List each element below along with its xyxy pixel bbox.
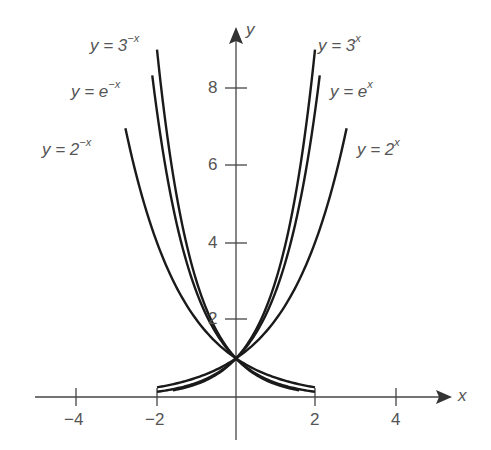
y-tick-label: 4	[208, 233, 217, 253]
label-exponent: x	[355, 32, 361, 44]
label-text: y = 3	[318, 36, 355, 55]
label-text: y = e	[330, 82, 367, 101]
x-tick-label: −4	[64, 410, 83, 430]
x-tick-label: 2	[310, 410, 319, 430]
curve-y-e-x	[152, 75, 315, 391]
curve-y-3-x	[173, 50, 315, 391]
label-y-e-pow-neg-x: y = e−x	[71, 80, 120, 102]
label-text: y = 3	[90, 36, 127, 55]
y-axis-label: y	[246, 20, 255, 40]
y-tick-label: 2	[208, 309, 217, 329]
label-exponent: −x	[127, 32, 139, 44]
y-tick-label: 8	[208, 78, 217, 98]
label-text: y = e	[71, 82, 108, 101]
x-tick-label: −2	[145, 410, 164, 430]
x-tick-label: 4	[391, 410, 400, 430]
x-axis-label: x	[458, 386, 467, 406]
y-tick-label: 6	[208, 155, 217, 175]
label-exponent: x	[367, 78, 373, 90]
curve-y-3-x	[157, 50, 299, 391]
label-y-2-pow-x: y = 2x	[357, 138, 400, 160]
label-y-2-pow-neg-x: y = 2−x	[42, 138, 91, 160]
exponential-chart	[0, 0, 491, 450]
label-exponent: −x	[108, 78, 120, 90]
label-exponent: x	[394, 136, 400, 148]
label-text: y = 2	[42, 140, 79, 159]
label-text: y = 2	[357, 140, 394, 159]
label-y-e-pow-x: y = ex	[330, 80, 373, 102]
curve-y-e-x	[157, 75, 320, 391]
label-y-3-pow-neg-x: y = 3−x	[90, 34, 139, 56]
label-y-3-pow-x: y = 3x	[318, 34, 361, 56]
label-exponent: −x	[79, 136, 91, 148]
